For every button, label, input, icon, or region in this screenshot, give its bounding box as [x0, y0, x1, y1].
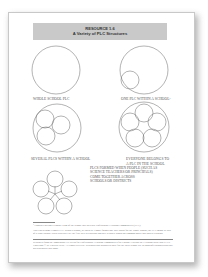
label-several-plcs: SEVERAL PLCS WITHIN A SCHOOL — [31, 157, 90, 161]
network-plcs-diagram — [33, 171, 77, 214]
one-plc-diagram — [120, 46, 168, 94]
desc-line: SCHOOLS OR DISTRICTS — [90, 179, 157, 183]
whole-school-circle — [32, 46, 80, 94]
everyone-belongs-diagram — [119, 102, 169, 152]
label-network-plcs: PLCS FORMED WHEN PEOPLE (SUCH AS SCIENCE… — [90, 166, 157, 184]
label-one-plc: ONE PLC WITHIN A SCHOOL¹ — [121, 97, 171, 101]
label-whole-school: WHOLE SCHOOL PLC — [33, 97, 69, 101]
several-plcs-diagram — [33, 104, 81, 152]
plc-structures-diagram — [0, 0, 208, 277]
